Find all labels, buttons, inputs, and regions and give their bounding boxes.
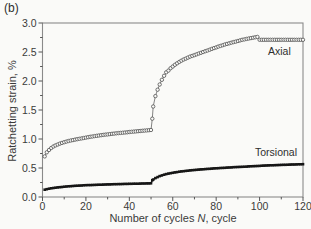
x-axis-title-unit: , cycle bbox=[205, 212, 236, 224]
series-label-axial: Axial bbox=[268, 45, 291, 57]
axial-data-marker bbox=[160, 78, 163, 81]
y-axis-title: Ratchetting strain, % bbox=[6, 60, 18, 162]
axial-data-marker bbox=[301, 38, 304, 41]
axial-data-marker bbox=[149, 128, 152, 131]
y-tick-label: 3.0 bbox=[22, 17, 37, 29]
torsional-data-marker bbox=[302, 163, 305, 166]
axial-data-marker bbox=[156, 88, 159, 91]
y-tick-label: 1.5 bbox=[22, 104, 37, 116]
axial-data-marker bbox=[151, 117, 154, 120]
x-tick-label: 100 bbox=[251, 200, 269, 212]
series-label-torsional: Torsional bbox=[255, 146, 297, 158]
axial-data-marker bbox=[162, 74, 165, 77]
series-axial bbox=[43, 35, 305, 158]
x-tick-label: 80 bbox=[210, 200, 222, 212]
axial-data-marker bbox=[158, 83, 161, 86]
x-tick-label: 120 bbox=[294, 200, 311, 212]
figure-panel: (b) 0204060801001200.00.51.01.52.02.53.0… bbox=[0, 0, 311, 229]
axial-data-marker bbox=[154, 94, 157, 97]
axial-data-marker bbox=[43, 155, 46, 158]
y-tick-label: 1.0 bbox=[22, 133, 37, 145]
y-tick-label: 0.0 bbox=[22, 191, 37, 203]
y-tick-label: 0.5 bbox=[22, 162, 37, 174]
torsional-data-marker bbox=[150, 182, 153, 185]
x-tick-label: 20 bbox=[80, 200, 92, 212]
axial-data-marker bbox=[152, 105, 155, 108]
y-tick-label: 2.0 bbox=[22, 75, 37, 87]
series-torsional bbox=[43, 163, 304, 191]
y-tick-label: 2.5 bbox=[22, 46, 37, 58]
x-axis-title: Number of cycles N, cycle bbox=[43, 212, 303, 224]
x-tick-label: 40 bbox=[123, 200, 135, 212]
x-tick-label: 60 bbox=[167, 200, 179, 212]
plot-frame bbox=[43, 23, 304, 197]
chart-canvas: 0204060801001200.00.51.01.52.02.53.0 bbox=[0, 0, 311, 229]
x-axis-title-text: Number of cycles bbox=[109, 212, 197, 224]
x-tick-label: 0 bbox=[40, 200, 46, 212]
